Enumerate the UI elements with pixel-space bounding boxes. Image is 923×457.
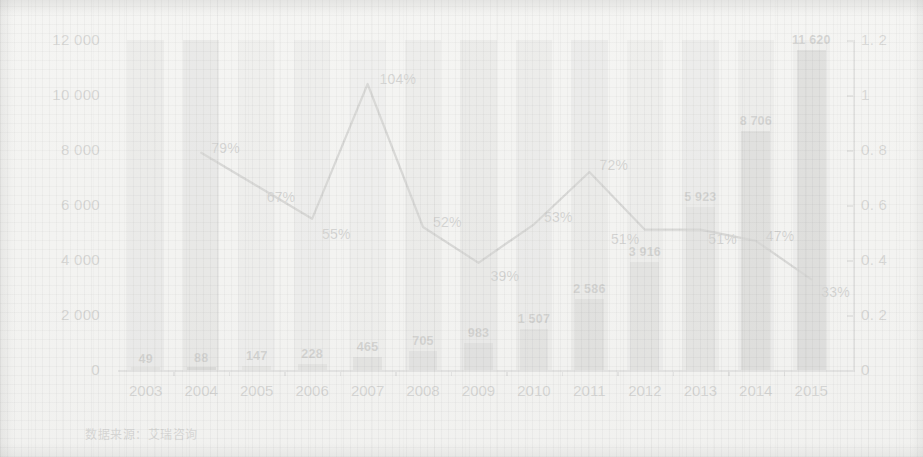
x-tick-label-2010: 2010 [506,382,561,399]
y-right-tick-06: 0. 6 [861,196,887,213]
x-tick-label-2009: 2009 [451,382,506,399]
x-tick-label-2013: 2013 [673,382,728,399]
growth-rate-label-2012: 51% [611,231,640,247]
x-tick-label-2015: 2015 [784,382,839,399]
chart-canvas: 02 0004 0006 0008 00010 00012 000 00. 20… [0,0,923,457]
bar-value-label-2011: 2 586 [562,282,617,296]
plot-area: 49881472284657059831 5072 5863 9165 9238… [118,40,839,370]
x-tick-label-2007: 2007 [340,382,395,399]
growth-rate-label-2009: 39% [491,268,520,284]
y-left-tick-10000: 10 000 [10,86,100,103]
growth-rate-label-2005: 67% [267,189,296,205]
growth-rate-label-2011: 72% [599,157,628,173]
y-right-tick-08: 0. 8 [861,141,887,158]
y-right-tick-12: 1. 2 [861,31,887,48]
y-left-tick-12000: 12 000 [10,31,100,48]
source-footnote: 数据来源：艾瑞咨询 [85,425,198,442]
growth-rate-label-2013: 51% [708,231,737,247]
x-tick-label-2004: 2004 [173,382,228,399]
y-left-tick-0: 0 [10,361,100,378]
y-left-tick-6000: 6 000 [10,196,100,213]
bar-value-label-2014: 8 706 [728,114,783,128]
bar-value-label-2012: 3 916 [617,245,672,259]
growth-rate-polyline [201,84,811,279]
growth-rate-label-2014: 47% [766,228,795,244]
x-tick-label-2011: 2011 [562,382,617,399]
growth-rate-line [118,40,839,370]
bar-value-label-2007: 465 [340,340,395,354]
growth-rate-label-2007: 104% [380,71,417,87]
bar-value-label-2009: 983 [451,326,506,340]
growth-rate-label-2008: 52% [433,214,462,230]
bar-value-label-2003: 49 [118,352,173,366]
y-left-tick-2000: 2 000 [10,306,100,323]
bar-value-label-2015: 11 620 [784,33,839,47]
x-tick-label-2005: 2005 [229,382,284,399]
x-axis-baseline [118,370,855,372]
growth-rate-label-2006: 55% [322,226,351,242]
growth-rate-label-2010: 53% [544,209,573,225]
y-right-tick-1: 1 [861,86,870,103]
y-left-tick-8000: 8 000 [10,141,100,158]
bar-value-label-2008: 705 [395,334,450,348]
x-tick-label-2008: 2008 [395,382,450,399]
x-tick-label-2012: 2012 [617,382,672,399]
right-axis-line [853,40,855,370]
y-right-tick-02: 0. 2 [861,306,887,323]
bar-value-label-2004: 88 [173,351,228,365]
x-tick-label-2014: 2014 [728,382,783,399]
bar-value-label-2006: 228 [284,347,339,361]
growth-rate-label-2004: 79% [211,140,240,156]
bar-value-label-2010: 1 507 [506,312,561,326]
y-right-tick-0: 0 [861,361,870,378]
y-right-tick-04: 0. 4 [861,251,887,268]
x-tick-label-2003: 2003 [118,382,173,399]
bar-value-label-2005: 147 [229,349,284,363]
y-left-tick-4000: 4 000 [10,251,100,268]
bar-value-label-2013: 5 923 [673,190,728,204]
growth-rate-label-2015: 33% [821,284,850,300]
x-tick-label-2006: 2006 [284,382,339,399]
